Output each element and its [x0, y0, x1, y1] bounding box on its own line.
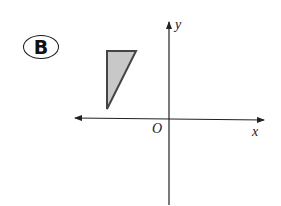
shaded-triangle [107, 51, 136, 109]
figure-label-badge: B [23, 35, 59, 59]
y-axis-label: y [175, 17, 181, 33]
coordinate-diagram: B y O x [0, 0, 281, 206]
diagram-svg [0, 0, 281, 206]
origin-label: O [152, 121, 162, 137]
x-axis-label: x [252, 124, 258, 140]
x-axis [170, 119, 264, 120]
x-axis-negative [75, 118, 170, 119]
